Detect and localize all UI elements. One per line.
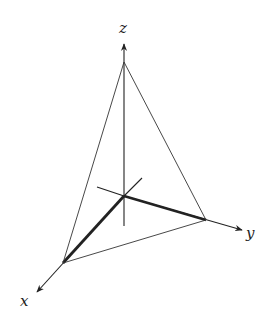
y-axis-label: y [245, 224, 255, 242]
edge-z-y [124, 62, 206, 220]
edge-z-x [63, 62, 124, 263]
z-axis-label: z [118, 19, 127, 37]
x-axis-label: x [20, 292, 29, 310]
edge-origin-x [63, 196, 124, 263]
coordinate-diagram: z x y [0, 0, 261, 320]
edge-origin-y [124, 196, 206, 220]
y-axis-negative [97, 187, 124, 196]
x-axis-negative [124, 178, 142, 196]
